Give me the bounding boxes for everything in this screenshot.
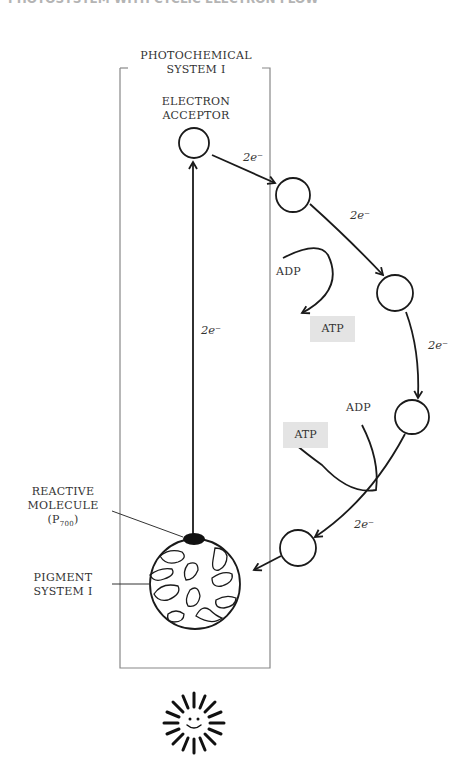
reactive-molecule-p700 <box>183 533 205 545</box>
electron-label-1: 2e⁻ <box>243 150 263 164</box>
adp-label-1: ADP <box>276 265 301 279</box>
pigment-label-2: SYSTEM I <box>20 585 106 599</box>
sun-icon <box>164 693 224 753</box>
carrier-circle-2 <box>377 275 413 311</box>
carrier-circle-3 <box>395 400 429 434</box>
electron-acceptor-circle <box>179 128 209 158</box>
pigment-label-1: PIGMENT <box>20 571 106 585</box>
electron-acceptor-label-2: ACCEPTOR <box>135 109 257 123</box>
carrier-circle-4 <box>280 530 316 566</box>
atp-box-2: ATP <box>283 422 328 448</box>
box-title-line1: PHOTOCHEMICAL <box>135 49 257 63</box>
pigment-granules <box>150 548 236 622</box>
reactive-label-3: (P700) <box>20 513 106 531</box>
reactive-label-2: MOLECULE <box>20 499 106 513</box>
atp-box-1: ATP <box>310 316 355 342</box>
adp-label-2: ADP <box>346 401 371 415</box>
box-title-line2: SYSTEM I <box>135 63 257 77</box>
electron-label-5: 2e⁻ <box>201 323 221 337</box>
electron-acceptor-label-1: ELECTRON <box>135 95 257 109</box>
electron-label-3: 2e⁻ <box>428 338 448 352</box>
electron-label-2: 2e⁻ <box>350 208 370 222</box>
electron-label-4: 2e⁻ <box>354 517 374 531</box>
reactive-label-1: REACTIVE <box>20 485 106 499</box>
carrier-circle-1 <box>276 178 310 212</box>
